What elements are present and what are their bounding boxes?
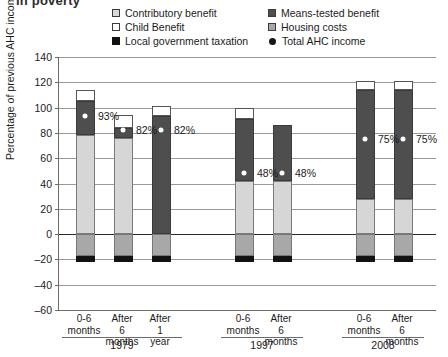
bar-0[interactable]	[76, 57, 95, 310]
x-tick-label: After1year	[149, 313, 170, 348]
bar-segment-local-government-taxation	[76, 256, 95, 262]
legend-label: Means-tested benefit	[281, 7, 379, 19]
data-label: 48%	[257, 167, 278, 179]
bar-segment-child-benefit	[394, 81, 413, 90]
legend-item-contributory-benefit: Contributory benefit	[112, 6, 254, 20]
y-tick-mark	[55, 209, 59, 210]
page-title: in poverty	[16, 0, 80, 8]
bar-segment-means-tested-benefit	[356, 90, 375, 199]
y-tick-mark	[55, 108, 59, 109]
data-label: 82%	[174, 124, 195, 136]
x-tick-label: 0-6months	[348, 313, 381, 336]
plot-area: 140120100806040200–20–40–6093%82%82%48%4…	[58, 57, 436, 310]
y-tick-label: 60	[40, 152, 52, 164]
square-mid-gray-icon	[268, 23, 276, 31]
bar-segment-local-government-taxation	[394, 256, 413, 262]
bar-2[interactable]	[152, 57, 171, 310]
bar-segment-local-government-taxation	[356, 256, 375, 262]
y-tick-mark	[55, 57, 59, 58]
bar-segment-contributory-benefit	[394, 199, 413, 234]
data-label: 82%	[136, 124, 157, 136]
total-ahc-income-marker	[121, 128, 126, 133]
square-white-icon	[112, 23, 120, 31]
total-ahc-income-marker	[363, 137, 368, 142]
y-tick-mark	[55, 158, 59, 159]
group-rule	[342, 337, 424, 338]
bar-segment-housing-costs	[235, 234, 254, 256]
bar-1[interactable]	[114, 57, 133, 310]
bar-segment-local-government-taxation	[152, 256, 171, 262]
data-label: 48%	[295, 167, 316, 179]
total-ahc-income-marker	[401, 137, 406, 142]
data-label: 75%	[378, 133, 399, 145]
bar-segment-contributory-benefit	[235, 181, 254, 234]
y-tick-label: 40	[40, 178, 52, 190]
y-tick-mark	[55, 133, 59, 134]
bar-4[interactable]	[273, 57, 292, 310]
y-tick-label: 80	[40, 127, 52, 139]
legend-item-child-benefit: Child Benefit	[112, 20, 254, 34]
x-tick-label: 0-6months	[68, 313, 101, 336]
bar-segment-child-benefit	[235, 108, 254, 119]
x-axis-line	[58, 310, 436, 311]
bar-segment-child-benefit	[76, 90, 95, 101]
bar-5[interactable]	[356, 57, 375, 310]
y-tick-label: –40	[34, 279, 52, 291]
square-dark-gray-icon	[268, 9, 276, 17]
bar-segment-contributory-benefit	[114, 138, 133, 234]
total-ahc-income-marker	[83, 114, 88, 119]
total-ahc-income-marker	[159, 128, 164, 133]
data-label: 75%	[416, 133, 437, 145]
group-label: 1979	[110, 339, 133, 351]
bar-6[interactable]	[394, 57, 413, 310]
legend-item-means-tested-benefit: Means-tested benefit	[268, 6, 379, 20]
bar-segment-housing-costs	[114, 234, 133, 256]
data-label: 93%	[98, 110, 119, 122]
bar-segment-contributory-benefit	[273, 181, 292, 234]
group-label: 1997	[250, 339, 273, 351]
y-tick-label: 120	[34, 76, 52, 88]
total-ahc-income-marker	[280, 171, 285, 176]
y-tick-mark	[55, 184, 59, 185]
bar-segment-child-benefit	[356, 81, 375, 90]
bar-segment-housing-costs	[152, 234, 171, 256]
group-rule	[221, 337, 303, 338]
bar-3[interactable]	[235, 57, 254, 310]
y-tick-mark	[55, 259, 59, 260]
legend-item-local-government-taxation: Local government taxation	[112, 34, 254, 48]
group-rule	[62, 337, 182, 338]
y-tick-mark	[55, 82, 59, 83]
bar-segment-contributory-benefit	[356, 199, 375, 234]
y-tick-label: 20	[40, 203, 52, 215]
y-tick-label: 140	[34, 51, 52, 63]
y-tick-mark	[55, 285, 59, 286]
bar-segment-housing-costs	[76, 234, 95, 256]
chart-legend: Contributory benefit Means-tested benefi…	[112, 6, 379, 48]
legend-item-housing-costs: Housing costs	[268, 20, 379, 34]
y-tick-label: 100	[34, 102, 52, 114]
chart-container: in poverty Contributory benefit Means-te…	[0, 0, 448, 357]
legend-label: Local government taxation	[125, 35, 248, 47]
bar-segment-child-benefit	[152, 106, 171, 116]
group-label: 2008	[371, 339, 394, 351]
legend-label: Child Benefit	[125, 21, 185, 33]
bar-segment-local-government-taxation	[114, 256, 133, 262]
bar-segment-contributory-benefit	[76, 135, 95, 234]
y-tick-mark	[55, 234, 59, 235]
y-axis-title: Percentage of previous AHC income	[4, 0, 16, 160]
bar-segment-housing-costs	[394, 234, 413, 256]
y-tick-label: –60	[34, 304, 52, 316]
legend-label: Contributory benefit	[125, 7, 217, 19]
y-tick-label: –20	[34, 253, 52, 265]
bar-segment-housing-costs	[273, 234, 292, 256]
bar-segment-local-government-taxation	[273, 256, 292, 262]
x-tick-label: 0-6months	[227, 313, 260, 336]
legend-label: Total AHC income	[282, 35, 365, 47]
legend-label: Housing costs	[281, 21, 347, 33]
bar-segment-housing-costs	[356, 234, 375, 256]
legend-item-total-ahc-income: Total AHC income	[268, 34, 379, 48]
total-ahc-income-marker	[242, 171, 247, 176]
square-light-gray-icon	[112, 9, 120, 17]
square-black-icon	[112, 37, 120, 45]
bar-segment-local-government-taxation	[235, 256, 254, 262]
